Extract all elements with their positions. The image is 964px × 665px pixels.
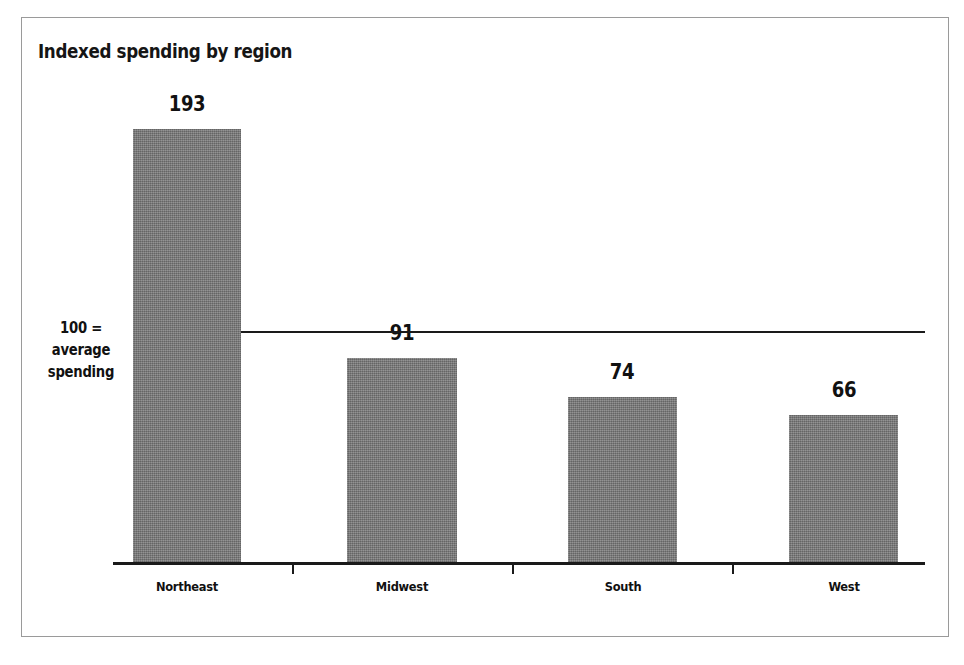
reference-line-100	[241, 331, 925, 333]
axis-tick-3	[732, 565, 734, 574]
bar-value-west: 66	[801, 378, 887, 402]
reference-label-line-3: spending	[39, 362, 123, 384]
chart-figure: Indexed spending by region 193 91 74 66 …	[0, 0, 964, 665]
bar-west[interactable]	[789, 415, 898, 563]
category-label-midwest: Midwest	[349, 579, 455, 594]
reference-label-line-1: 100 =	[39, 318, 123, 340]
bar-northeast[interactable]	[133, 129, 241, 563]
bar-value-south: 74	[579, 360, 665, 384]
bar-value-midwest: 91	[359, 321, 445, 345]
category-label-south: South	[570, 579, 676, 594]
reference-label-line-2: average	[39, 340, 123, 362]
bar-midwest[interactable]	[347, 358, 457, 563]
axis-tick-1	[292, 565, 294, 574]
plot-area: 193 91 74 66 100 = average spending Nort…	[0, 0, 964, 665]
bar-south[interactable]	[568, 397, 677, 563]
reference-line-label: 100 = average spending	[33, 318, 129, 383]
x-axis-line	[113, 562, 925, 565]
category-label-northeast: Northeast	[134, 579, 240, 594]
category-label-west: West	[791, 579, 897, 594]
bar-value-northeast: 193	[144, 92, 230, 116]
axis-tick-2	[512, 565, 514, 574]
